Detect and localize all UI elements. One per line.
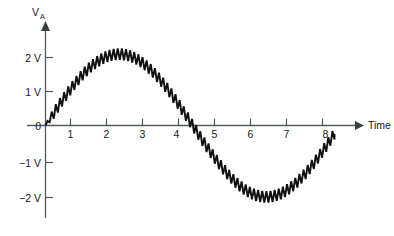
y-tick-label-minus2: −2 V [19, 192, 41, 204]
y-tick-label-2: 2 V [25, 52, 41, 64]
x-tick-label-4: 4 [174, 128, 180, 140]
x-axis-title: Time [368, 119, 391, 131]
x-tick-label-1: 1 [68, 128, 74, 140]
y-tick-label-minus1: −1 V [19, 157, 41, 169]
y-axis-title-subscript: A [40, 12, 45, 21]
y-tick-label-0: 0 [35, 120, 41, 132]
x-tick-label-5: 5 [212, 128, 218, 140]
y-axis-title: V [32, 6, 39, 18]
y-tick-label-1: 1 V [25, 86, 41, 98]
chart-figure: 2 V 1 V 0 −1 V −2 V 1 2 3 4 5 6 7 8 V A … [0, 0, 394, 236]
y-tick-marks [46, 58, 54, 198]
x-tick-label-7: 7 [284, 128, 290, 140]
x-tick-label-3: 3 [140, 128, 146, 140]
y-axis-arrow-icon [41, 21, 50, 31]
x-tick-label-6: 6 [248, 128, 254, 140]
x-tick-marks [71, 119, 323, 126]
x-axis-arrow-icon [355, 121, 364, 130]
waveform-plot: 2 V 1 V 0 −1 V −2 V 1 2 3 4 5 6 7 8 V A … [0, 0, 394, 236]
x-tick-label-2: 2 [104, 128, 110, 140]
